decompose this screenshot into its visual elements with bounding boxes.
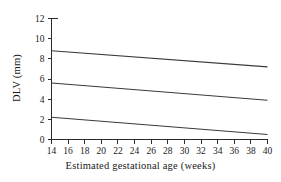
y-tick-label: 10 — [35, 34, 45, 44]
y-axis-ticks — [48, 19, 52, 140]
data-series-group — [52, 51, 268, 135]
x-tick-label: 24 — [130, 146, 140, 156]
series-line-lower-centile — [52, 117, 268, 134]
plot-area: 024681012 1416182022242628303234363840 — [0, 0, 281, 182]
x-tick-label: 34 — [213, 146, 223, 156]
x-tick-label: 32 — [196, 146, 206, 156]
x-axis-title: Estimated gestational age (weeks) — [0, 160, 281, 171]
y-tick-label: 6 — [40, 74, 45, 84]
x-axis-tick-labels: 1416182022242628303234363840 — [47, 146, 273, 156]
x-tick-label: 14 — [47, 146, 57, 156]
x-tick-label: 38 — [246, 146, 256, 156]
x-tick-label: 40 — [263, 146, 273, 156]
y-tick-label: 8 — [40, 54, 45, 64]
y-tick-label: 0 — [40, 135, 45, 145]
x-tick-label: 16 — [63, 146, 73, 156]
series-line-median — [52, 83, 268, 100]
y-tick-label: 2 — [40, 115, 45, 125]
y-tick-label: 12 — [35, 14, 45, 24]
x-tick-label: 18 — [80, 146, 90, 156]
x-tick-label: 26 — [146, 146, 156, 156]
x-axis-ticks — [52, 140, 268, 144]
x-tick-label: 28 — [163, 146, 173, 156]
x-tick-label: 20 — [97, 146, 107, 156]
chart-figure: DLV (mm) 024681012 141618202224262830323… — [0, 0, 281, 182]
y-axis-tick-labels: 024681012 — [35, 14, 45, 145]
x-tick-label: 30 — [180, 146, 190, 156]
x-tick-label: 22 — [113, 146, 123, 156]
y-tick-label: 4 — [40, 95, 45, 105]
x-tick-label: 36 — [230, 146, 240, 156]
series-line-upper-centile — [52, 51, 268, 67]
